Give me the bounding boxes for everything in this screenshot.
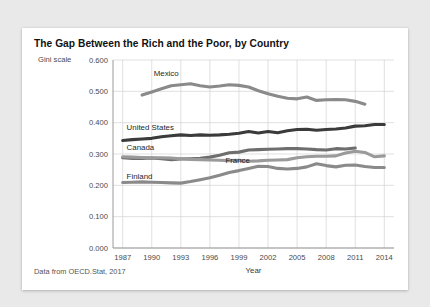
x-axis-tick-label: 1987: [108, 253, 138, 262]
series-label-finland: Finland: [127, 172, 153, 181]
x-axis-tick-label: 2008: [311, 253, 341, 262]
series-lines: [123, 84, 385, 183]
series-line-finland: [123, 164, 385, 183]
x-axis-tick-label: 2002: [253, 253, 283, 262]
x-axis-tick-label: 1999: [224, 253, 254, 262]
source-note: Data from OECD.Stat, 2017: [34, 267, 126, 276]
y-axis-tick-label: 0.000: [74, 244, 108, 253]
x-axis-title: Year: [224, 266, 284, 275]
series-label-mexico: Mexico: [154, 69, 179, 78]
x-axis-tick-label: 1996: [195, 253, 225, 262]
y-axis-tick-label: 0.400: [74, 118, 108, 127]
y-axis-tick-label: 0.100: [74, 212, 108, 221]
series-label-france: France: [225, 156, 250, 165]
plot-area: 0.0000.1000.2000.3000.4000.5000.60019871…: [22, 28, 408, 290]
x-axis-tick-label: 1990: [137, 253, 167, 262]
y-axis-tick-label: 0.500: [74, 87, 108, 96]
x-axis-tick-label: 2014: [369, 253, 399, 262]
series-label-canada: Canada: [127, 143, 155, 152]
series-label-united-states: United States: [127, 123, 174, 132]
x-axis-tick-label: 2011: [340, 253, 370, 262]
y-axis-tick-label: 0.300: [74, 150, 108, 159]
y-axis-tick-label: 0.600: [74, 56, 108, 65]
series-line-mexico: [142, 84, 365, 104]
x-axis-tick-label: 1993: [166, 253, 196, 262]
x-axis-tick-label: 2005: [282, 253, 312, 262]
chart-card: The Gap Between the Rich and the Poor, b…: [22, 28, 408, 290]
y-axis-tick-label: 0.200: [74, 181, 108, 190]
